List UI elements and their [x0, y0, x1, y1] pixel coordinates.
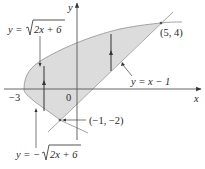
- point-5-4: [160, 22, 163, 25]
- point-5-4-label: (5, 4): [160, 27, 183, 39]
- region-diagram: y x 0 −3 y = 2x + 6 y = − 2x + 6 y = x −…: [0, 0, 205, 169]
- svg-text:y =: y =: [7, 24, 22, 35]
- pointer-line-label: [123, 65, 132, 76]
- pointer-lower-arrow-icon: [35, 108, 38, 112]
- y-axis-label: y: [67, 2, 73, 13]
- upper-curve-label: y = 2x + 6: [7, 20, 65, 35]
- pointer-line-arrow-icon: [121, 62, 125, 66]
- svg-text:2x + 6: 2x + 6: [50, 149, 78, 160]
- svg-text:y = −: y = −: [15, 149, 40, 160]
- shaded-region: [24, 23, 161, 120]
- line-label: y = x − 1: [130, 76, 170, 87]
- svg-text:2x + 6: 2x + 6: [34, 24, 62, 35]
- x-tick-neg3-label: −3: [9, 92, 20, 103]
- origin-label: 0: [66, 92, 71, 103]
- x-axis-label: x: [193, 93, 199, 104]
- point-neg1-neg2: [59, 119, 62, 122]
- lower-curve-label: y = − 2x + 6: [15, 145, 81, 160]
- point-neg1-neg2-label: (−1, −2): [89, 115, 124, 127]
